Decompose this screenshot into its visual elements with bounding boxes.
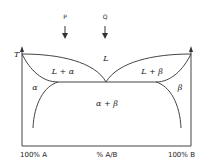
x-axis-right-label: 100% B: [168, 151, 195, 159]
region-alpha-beta-label: α + β: [96, 99, 118, 108]
marker-q: Q: [103, 13, 108, 36]
marker-q-label: Q: [103, 13, 108, 20]
region-liquid-label: L: [102, 54, 108, 63]
x-axis-left-label: 100% A: [20, 151, 47, 159]
x-axis-center-label: % A/B: [97, 151, 118, 159]
phase-boundaries: [22, 54, 191, 128]
y-axis-arrow-icon: [20, 46, 24, 52]
region-alpha-label: α: [32, 83, 38, 92]
region-beta-label: β: [177, 83, 183, 92]
region-liquid-beta-label: L + β: [140, 67, 163, 76]
marker-p-label: P: [63, 13, 67, 20]
right-axis-arrow-icon: [189, 46, 193, 52]
y-axis-label: T: [14, 50, 20, 59]
region-liquid-alpha-label: L + α: [51, 67, 75, 76]
marker-p: P: [63, 13, 67, 36]
phase-diagram: P Q T 100% A % A/B 100% B L L + α L + β …: [0, 0, 205, 168]
